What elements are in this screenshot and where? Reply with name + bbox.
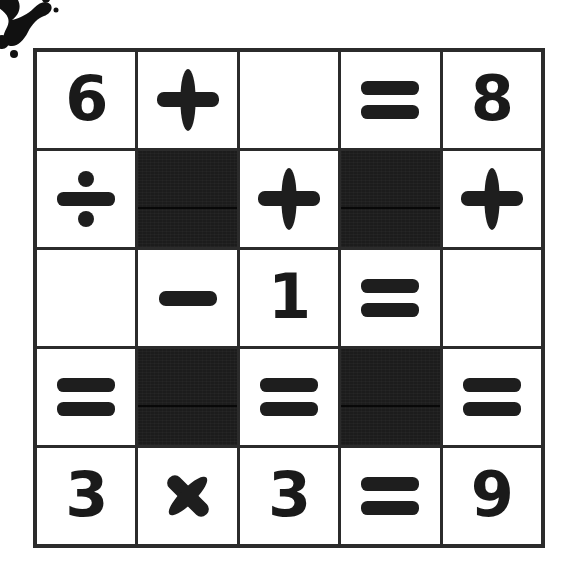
grid-cell-empty[interactable] [37, 250, 135, 346]
grid-cell-filled [37, 151, 135, 247]
grid-cell-filled [37, 349, 135, 445]
digit-three: 3 [65, 464, 107, 526]
plus-icon [258, 168, 320, 230]
grid-cell-filled [138, 52, 236, 148]
equals-icon [260, 378, 318, 416]
grid-cell-filled [443, 151, 541, 247]
grid-cell-empty[interactable] [240, 52, 338, 148]
grid-cell-filled [138, 250, 236, 346]
blocked-cell [187, 199, 188, 200]
blank-cell [288, 100, 289, 101]
puzzle-page: 681339 [0, 0, 565, 564]
grid-cell-filled: 8 [443, 52, 541, 148]
puzzle-grid: 681339 [33, 48, 545, 548]
digit-nine: 9 [471, 464, 513, 526]
grid-cell-filled [138, 448, 236, 544]
equals-icon [361, 81, 419, 119]
plus-icon [461, 168, 523, 230]
grid-cell-filled [341, 52, 439, 148]
minus-icon [159, 291, 217, 306]
grid-cell-filled [240, 349, 338, 445]
multiply-icon [162, 470, 214, 522]
digit-three: 3 [268, 464, 310, 526]
grid-cell-filled: 1 [240, 250, 338, 346]
digit-six: 6 [65, 68, 107, 130]
blocked-cell [187, 397, 188, 398]
equals-icon [361, 279, 419, 317]
blank-cell [491, 298, 492, 299]
blocked-cell [390, 199, 391, 200]
grid-cell-blocked [138, 151, 236, 247]
grid-cell-filled: 3 [240, 448, 338, 544]
grid-cell-blocked [341, 349, 439, 445]
equals-icon [463, 378, 521, 416]
plus-icon [157, 69, 219, 131]
digit-eight: 8 [471, 68, 513, 130]
equals-icon [361, 477, 419, 515]
digit-one: 1 [268, 266, 310, 328]
equals-icon [57, 378, 115, 416]
grid-cell-filled: 9 [443, 448, 541, 544]
grid-cell-blocked [138, 349, 236, 445]
grid-cell-blocked [341, 151, 439, 247]
blocked-cell [390, 397, 391, 398]
grid-cell-empty[interactable] [443, 250, 541, 346]
grid-cell-filled: 3 [37, 448, 135, 544]
grid-cell-filled: 6 [37, 52, 135, 148]
grid-cell-filled [341, 250, 439, 346]
divide-icon [57, 171, 115, 227]
grid-cell-filled [443, 349, 541, 445]
grid-cell-filled [341, 448, 439, 544]
grid-cell-filled [240, 151, 338, 247]
blank-cell [86, 298, 87, 299]
